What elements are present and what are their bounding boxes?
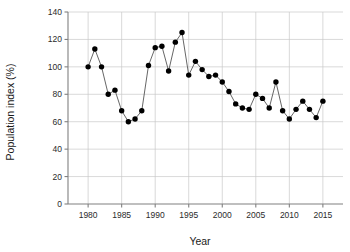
- data-point: [293, 107, 298, 112]
- data-point: [139, 108, 144, 113]
- data-point: [246, 107, 251, 112]
- data-point: [132, 116, 137, 121]
- line-chart: 020406080100120140 198019851990199520002…: [0, 0, 350, 252]
- data-point: [193, 59, 198, 64]
- data-point: [153, 45, 158, 50]
- data-point: [179, 30, 184, 35]
- data-point: [280, 108, 285, 113]
- data-point: [92, 46, 97, 51]
- data-point: [186, 72, 191, 77]
- x-tick-label: 2015: [313, 210, 332, 220]
- y-tick-label: 80: [53, 89, 63, 99]
- data-point: [146, 63, 151, 68]
- data-point: [173, 39, 178, 44]
- data-point: [85, 64, 90, 69]
- data-point: [220, 79, 225, 84]
- data-point: [166, 68, 171, 73]
- x-axis-title: Year: [189, 235, 211, 247]
- data-point: [213, 72, 218, 77]
- data-point: [199, 67, 204, 72]
- data-point: [126, 119, 131, 124]
- y-tick-label: 60: [53, 117, 63, 127]
- data-point: [206, 74, 211, 79]
- x-tick-label: 1980: [79, 210, 98, 220]
- data-point: [233, 101, 238, 106]
- data-point: [287, 116, 292, 121]
- y-tick-label: 120: [48, 34, 62, 44]
- data-point: [300, 98, 305, 103]
- data-point: [273, 79, 278, 84]
- y-tick-label: 0: [57, 199, 62, 209]
- data-point: [159, 44, 164, 49]
- data-point: [313, 115, 318, 120]
- x-tick-label: 1990: [146, 210, 165, 220]
- data-point: [320, 98, 325, 103]
- data-point: [260, 96, 265, 101]
- data-point: [307, 107, 312, 112]
- data-point: [112, 87, 117, 92]
- x-tick-label: 2005: [246, 210, 265, 220]
- y-tick-label: 40: [53, 144, 63, 154]
- y-tick-label: 140: [48, 7, 62, 17]
- y-tick-label: 20: [53, 172, 63, 182]
- data-point: [106, 92, 111, 97]
- x-tick-label: 2010: [280, 210, 299, 220]
- data-point: [99, 64, 104, 69]
- x-tick-label: 2000: [213, 210, 232, 220]
- data-point: [119, 108, 124, 113]
- y-tick-label: 100: [48, 62, 62, 72]
- data-point: [253, 92, 258, 97]
- data-point: [267, 105, 272, 110]
- chart-figure: 020406080100120140 198019851990199520002…: [0, 0, 350, 252]
- data-point: [240, 105, 245, 110]
- data-point: [226, 89, 231, 94]
- x-tick-label: 1985: [112, 210, 131, 220]
- x-tick-label: 1995: [179, 210, 198, 220]
- y-axis-title: Population index (%): [4, 64, 16, 161]
